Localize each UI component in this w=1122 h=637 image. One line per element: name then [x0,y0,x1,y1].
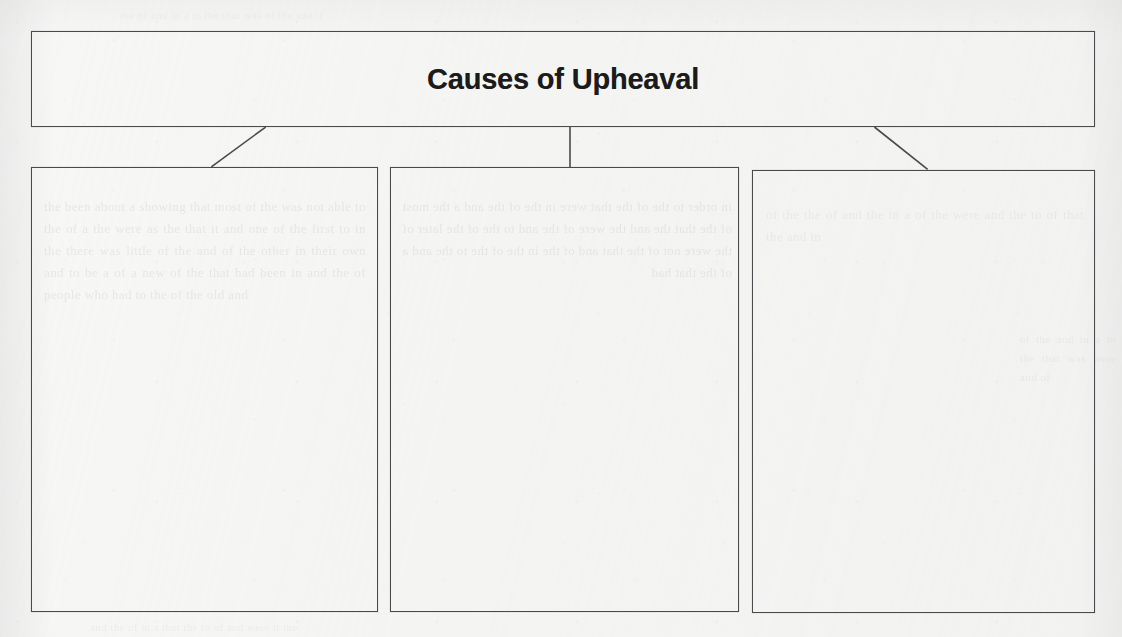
cause-box-1[interactable] [31,167,378,612]
worksheet-page: the of and in a to the that was of the a… [0,0,1122,637]
connector-right [875,128,927,170]
ghost-text-bottom-strip: and the of in a that the to of and were … [90,616,1030,637]
connector-left [212,128,265,167]
page-title: Causes of Upheaval [427,65,699,94]
cause-box-2[interactable] [390,167,739,612]
cause-box-3[interactable] [752,170,1095,613]
organizer-title-box: Causes of Upheaval [31,31,1095,127]
ghost-text-top-strip: the of and in a to the that was of the a… [120,4,1000,26]
